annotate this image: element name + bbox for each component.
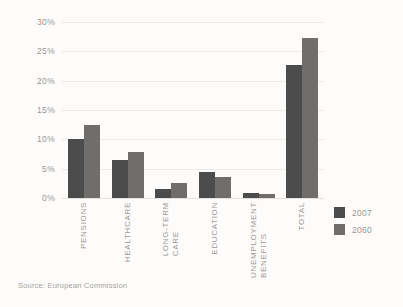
y-tick-label: 25% <box>37 46 55 56</box>
bar-group <box>149 22 193 198</box>
bar <box>84 125 100 198</box>
bar <box>259 194 275 198</box>
source-caption: Source: European Commission <box>18 281 127 290</box>
y-tick-label: 5% <box>42 164 55 174</box>
bar-group <box>280 22 324 198</box>
legend-item[interactable]: 2060 <box>334 221 372 238</box>
x-tick-label: TOTAL <box>297 202 307 231</box>
bar <box>128 152 144 198</box>
bar <box>199 172 215 198</box>
legend-item[interactable]: 2007 <box>334 204 372 221</box>
legend-label: 2007 <box>352 208 372 218</box>
x-tick-label: UNEMPLOYMENT BENEFITS <box>249 202 269 278</box>
bar <box>243 193 259 198</box>
x-label-cell: UNEMPLOYMENT BENEFITS <box>237 200 281 286</box>
bar <box>302 38 318 198</box>
bar-group <box>62 22 106 198</box>
y-tick-label: 20% <box>37 76 55 86</box>
legend-swatch-icon <box>334 224 345 235</box>
gridline <box>62 198 324 199</box>
bar-groups <box>62 22 324 198</box>
legend-label: 2060 <box>352 225 372 235</box>
y-tick-label: 30% <box>37 17 55 27</box>
x-tick-label: EDUCATION <box>210 202 220 255</box>
legend-swatch-icon <box>334 207 345 218</box>
bar <box>155 189 171 198</box>
y-tick-label: 0% <box>42 193 55 203</box>
bar <box>112 160 128 198</box>
x-label-cell: LONG-TERM CARE <box>149 200 193 286</box>
plot-area: 0%5%10%15%20%25%30% <box>62 22 324 198</box>
chart-legend: 20072060 <box>334 204 372 238</box>
bar <box>286 65 302 198</box>
bar-group <box>237 22 281 198</box>
chart-figure: 0%5%10%15%20%25%30% PENSIONSHEALTHCARELO… <box>0 0 403 307</box>
x-axis-category-labels: PENSIONSHEALTHCARELONG-TERM CAREEDUCATIO… <box>62 200 324 286</box>
bar <box>215 177 231 198</box>
x-tick-label: PENSIONS <box>79 202 89 249</box>
x-label-cell: TOTAL <box>280 200 324 286</box>
y-tick-label: 15% <box>37 105 55 115</box>
bar-group <box>106 22 150 198</box>
x-tick-label: LONG-TERM CARE <box>161 202 181 256</box>
bar-group <box>193 22 237 198</box>
x-label-cell: PENSIONS <box>62 200 106 286</box>
bar <box>68 139 84 198</box>
x-label-cell: HEALTHCARE <box>106 200 150 286</box>
y-tick-label: 10% <box>37 134 55 144</box>
x-tick-label: HEALTHCARE <box>123 202 133 262</box>
bar <box>171 183 187 198</box>
x-label-cell: EDUCATION <box>193 200 237 286</box>
